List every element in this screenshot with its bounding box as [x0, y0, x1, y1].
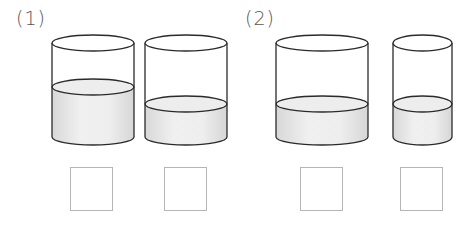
answer-box-1a[interactable]	[70, 167, 113, 211]
answer-box-2a[interactable]	[300, 167, 343, 211]
water-surface	[145, 96, 227, 112]
cylinder-rim	[145, 35, 227, 51]
answer-box-1b[interactable]	[164, 167, 207, 211]
cylinder-b	[145, 35, 227, 145]
answer-box-2b[interactable]	[400, 167, 443, 211]
cylinder-rim	[52, 35, 134, 51]
water-body	[52, 87, 134, 145]
cylinder-rim	[276, 35, 368, 51]
water-surface	[52, 79, 134, 95]
water-surface	[393, 96, 452, 112]
water-surface	[276, 96, 368, 112]
cylinder-a	[52, 35, 134, 145]
cylinder-rim	[393, 35, 452, 51]
cylinder-d	[393, 35, 452, 145]
cylinder-c	[276, 35, 368, 145]
